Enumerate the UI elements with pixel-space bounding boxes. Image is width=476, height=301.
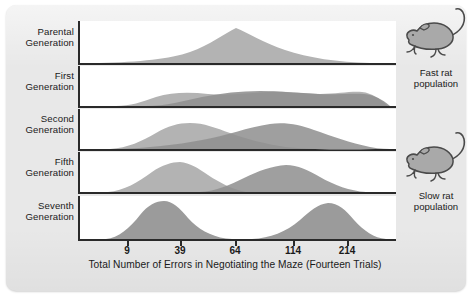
row-label-fifth-line2: Generation xyxy=(6,167,74,178)
row-label-parental-line1: Parental xyxy=(6,26,74,37)
legend-slow-rat-label: Slow rat population xyxy=(400,190,472,212)
panel-fifth-curves xyxy=(80,152,396,194)
panel-seventh-generation xyxy=(78,196,396,241)
legend-fast-rat-label: Fast rat population xyxy=(400,67,472,89)
row-label-fifth: Fifth Generation xyxy=(6,156,74,178)
row-label-second-line1: Second xyxy=(6,113,74,124)
x-axis-tick-row: 9 39 64 114 214 xyxy=(78,241,396,257)
curve-seventh-slow xyxy=(252,203,392,239)
panel-fifth-generation xyxy=(78,152,396,194)
row-label-parental: Parental Generation xyxy=(6,26,74,48)
tick-label-9: 9 xyxy=(124,245,130,256)
curve-parental-unselected xyxy=(99,28,396,63)
figure-root: Parental Generation First Generation Sec… xyxy=(0,0,476,301)
row-label-fifth-line1: Fifth xyxy=(6,156,74,167)
x-axis-title: Total Number of Errors in Negotiating th… xyxy=(60,259,410,270)
rat-icon-slow xyxy=(398,130,472,192)
panel-parental-generation xyxy=(78,21,396,65)
row-label-second: Second Generation xyxy=(6,113,74,135)
rat-icon-fast xyxy=(398,6,472,68)
row-label-first-line1: First xyxy=(6,70,74,81)
legend-slow-rat-line2: population xyxy=(400,201,472,212)
panel-first-curves xyxy=(80,66,396,108)
panel-second-curves xyxy=(80,109,396,151)
panel-seventh-curves xyxy=(80,196,396,241)
row-label-first: First Generation xyxy=(6,70,74,92)
legend-slow-rat-line1: Slow rat xyxy=(400,190,472,201)
tick-label-114: 114 xyxy=(285,245,301,256)
panel-first-generation xyxy=(78,66,396,108)
row-label-seventh: Seventh Generation xyxy=(6,200,74,222)
curve-fifth-slow xyxy=(200,165,384,192)
panel-second-generation xyxy=(78,109,396,151)
panel-parental-curves xyxy=(80,21,396,65)
row-label-seventh-line1: Seventh xyxy=(6,200,74,211)
row-label-seventh-line2: Generation xyxy=(6,211,74,222)
legend-fast-rat-line1: Fast rat xyxy=(400,67,472,78)
tick-label-214: 214 xyxy=(339,245,356,256)
tick-label-64: 64 xyxy=(229,245,240,256)
row-label-first-line2: Generation xyxy=(6,81,74,92)
row-label-second-line2: Generation xyxy=(6,124,74,135)
curve-seventh-fast xyxy=(106,201,232,239)
legend-fast-rat-line2: population xyxy=(400,78,472,89)
row-label-parental-line2: Generation xyxy=(6,37,74,48)
tick-label-39: 39 xyxy=(174,245,185,256)
